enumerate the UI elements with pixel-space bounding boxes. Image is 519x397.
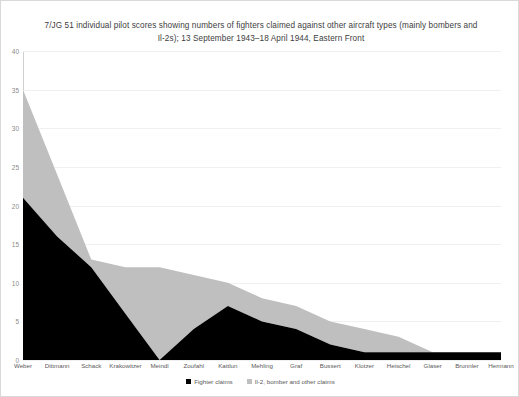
area-series-group [23, 51, 501, 360]
y-axis-tick-label: 35 [12, 86, 19, 93]
x-axis-tick-label: Krakowitzer [109, 362, 141, 369]
gridline [23, 360, 501, 361]
x-axis-tick-label: Hermann [488, 362, 513, 369]
y-axis-tick-label: 20 [12, 202, 19, 209]
y-axis-tick-label: 15 [12, 241, 19, 248]
chart-title: 7/JG 51 individual pilot scores showing … [41, 19, 481, 45]
y-axis-tick-label: 10 [12, 279, 19, 286]
x-axis-tick-label: Meindl [150, 362, 168, 369]
chart-legend: Fighter claimsIl-2, bomber and other cla… [1, 378, 519, 385]
y-axis-tick-label: 25 [12, 163, 19, 170]
x-axis-tick-label: Graf [290, 362, 302, 369]
legend-label: Il-2, bomber and other claims [255, 378, 335, 385]
area-series-fighter-claims [23, 198, 501, 360]
x-axis-tick-label: Weber [14, 362, 32, 369]
plot-area: 0510152025303540 [23, 51, 501, 360]
y-axis-tick-label: 30 [12, 125, 19, 132]
x-axis-tick-label: Schack [81, 362, 101, 369]
x-axis-tick-label: Zoufahl [183, 362, 204, 369]
x-axis-tick-label: Glaser [424, 362, 442, 369]
chart-container: 7/JG 51 individual pilot scores showing … [0, 0, 519, 397]
x-axis-tick-label: Kattlun [218, 362, 237, 369]
legend-label: Fighter claims [194, 378, 233, 385]
y-axis-tick-label: 5 [15, 318, 19, 325]
x-axis-tick-label: Mehling [251, 362, 273, 369]
y-axis-tick-label: 40 [12, 48, 19, 55]
legend-swatch [186, 379, 191, 384]
x-axis-tick-label: Dittmann [45, 362, 70, 369]
legend-item[interactable]: Il-2, bomber and other claims [247, 378, 335, 385]
legend-item[interactable]: Fighter claims [186, 378, 233, 385]
x-axis-tick-label: Brunnler [455, 362, 478, 369]
x-axis-tick-label: Heischel [387, 362, 411, 369]
legend-swatch [247, 379, 252, 384]
x-axis-tick-label: Bussert [320, 362, 341, 369]
x-axis-tick-label: Klotzer [355, 362, 374, 369]
x-axis-labels: WeberDittmannSchackKrakowitzerMeindlZouf… [23, 362, 501, 374]
